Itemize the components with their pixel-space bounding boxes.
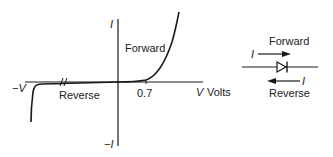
threshold-label: 0.7 [137,87,152,99]
forward-region-label: Forward [125,42,165,54]
x-axis-left-label: −V [12,82,27,94]
x-axis-right-unit: Volts [207,86,231,98]
diode-triangle-icon [277,62,286,72]
y-axis-bottom-label: −I [104,138,113,150]
symbol-forward-label: Forward [269,35,309,47]
y-axis-top-label: I [110,18,113,30]
diode-iv-diagram: I −I −V V Volts Forward Reverse 0.7 I Fo… [0,0,333,157]
reverse-arrow-icon [267,78,276,84]
diode-symbol [242,62,318,73]
reverse-curve [31,82,118,122]
x-axis-right-var: V [196,86,205,98]
forward-current-label: I [251,48,254,60]
forward-arrow-icon [282,51,291,57]
reverse-region-label: Reverse [59,89,100,101]
reverse-current-label: I [302,75,305,87]
symbol-reverse-label: Reverse [269,87,310,99]
